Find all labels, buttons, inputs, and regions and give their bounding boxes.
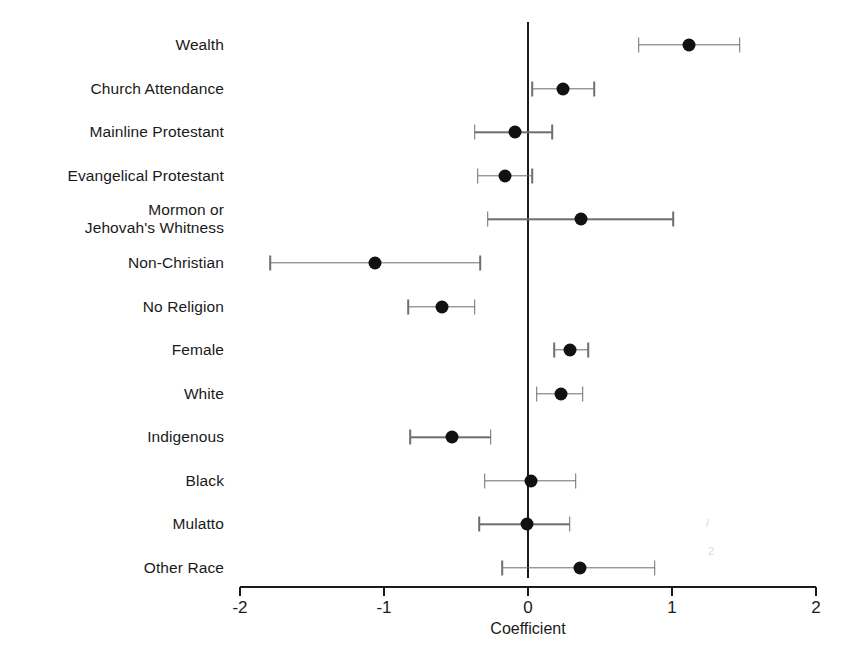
confidence-interval-cap-high <box>480 255 482 270</box>
confidence-interval-cap-low <box>408 299 410 314</box>
x-axis-tick-label: -2 <box>232 598 247 618</box>
zero-reference-line <box>527 22 529 578</box>
confidence-interval-cap-low <box>269 255 271 270</box>
x-axis-title: Coefficient <box>490 620 565 638</box>
confidence-interval-cap-high <box>532 168 534 183</box>
confidence-interval-cap-low <box>474 125 476 140</box>
confidence-interval-cap-low <box>536 386 538 401</box>
x-axis-tick-label: -1 <box>376 598 391 618</box>
point-estimate-marker <box>369 256 382 269</box>
point-estimate-marker <box>498 169 511 182</box>
category-label: Mulatto <box>4 515 224 533</box>
confidence-interval-cap-high <box>593 81 595 96</box>
point-estimate-marker <box>683 39 696 52</box>
point-estimate-marker <box>445 431 458 444</box>
category-label: Female <box>4 341 224 359</box>
x-axis-tick <box>239 587 240 596</box>
x-axis-tick <box>815 587 816 596</box>
confidence-interval-cap-high <box>490 430 492 445</box>
confidence-interval-cap-low <box>478 517 480 532</box>
category-label: No Religion <box>4 298 224 316</box>
category-label: Evangelical Protestant <box>4 167 224 185</box>
confidence-interval-cap-high <box>582 386 584 401</box>
point-estimate-marker <box>509 126 522 139</box>
coefficient-plot: WealthChurch AttendanceMainline Protesta… <box>0 0 856 666</box>
confidence-interval-cap-low <box>638 38 640 53</box>
category-label: Other Race <box>4 559 224 577</box>
confidence-interval-cap-high <box>654 561 656 576</box>
category-label: Non-Christian <box>4 254 224 272</box>
scan-artifact: 2 <box>708 545 714 557</box>
confidence-interval-cap-low <box>501 561 503 576</box>
confidence-interval-cap-high <box>552 125 554 140</box>
point-estimate-marker <box>573 562 586 575</box>
confidence-interval-cap-low <box>532 81 534 96</box>
confidence-interval-cap-low <box>487 212 489 227</box>
category-label: Wealth <box>4 36 224 54</box>
category-label: Mainline Protestant <box>4 123 224 141</box>
x-axis-tick-label: 1 <box>667 598 676 618</box>
x-axis-tick-label: 2 <box>811 598 820 618</box>
category-label: Church Attendance <box>4 80 224 98</box>
confidence-interval-cap-low <box>409 430 411 445</box>
confidence-interval-cap-low <box>553 343 555 358</box>
confidence-interval-cap-low <box>477 168 479 183</box>
confidence-interval-cap-high <box>474 299 476 314</box>
confidence-interval-cap-high <box>575 473 577 488</box>
confidence-interval-cap-high <box>569 517 571 532</box>
point-estimate-marker <box>555 387 568 400</box>
point-estimate-marker <box>575 213 588 226</box>
category-label: White <box>4 385 224 403</box>
point-estimate-marker <box>556 82 569 95</box>
point-estimate-marker <box>435 300 448 313</box>
x-axis-tick <box>671 587 672 596</box>
confidence-interval-cap-high <box>739 38 741 53</box>
category-label: Black <box>4 472 224 490</box>
category-label: Indigenous <box>4 428 224 446</box>
confidence-interval-cap-low <box>484 473 486 488</box>
point-estimate-marker <box>524 474 537 487</box>
category-label: Mormon or Jehovah's Whitness <box>4 201 224 237</box>
point-estimate-marker <box>563 344 576 357</box>
x-axis-tick <box>383 587 384 596</box>
scan-artifact: / <box>706 517 709 529</box>
x-axis-tick <box>527 587 528 596</box>
confidence-interval-cap-high <box>673 212 675 227</box>
point-estimate-marker <box>520 518 533 531</box>
x-axis-tick-label: 0 <box>523 598 532 618</box>
confidence-interval-cap-high <box>588 343 590 358</box>
